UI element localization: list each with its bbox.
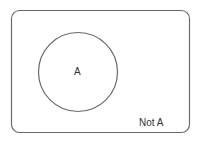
- not-a-label: Not A: [139, 117, 163, 128]
- set-a-label: A: [74, 66, 81, 77]
- venn-diagram: [0, 0, 200, 142]
